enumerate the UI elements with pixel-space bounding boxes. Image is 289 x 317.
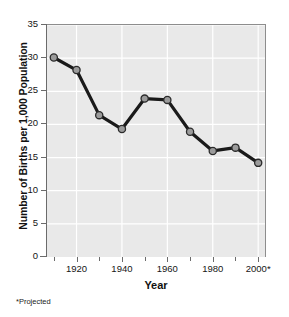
x-tick-mark [258, 257, 259, 262]
birth-rate-line-chart: Number of Births per 1,000 Population 05… [0, 0, 289, 317]
gridlines [47, 25, 265, 257]
x-tick-mark [167, 257, 168, 262]
y-tick-label: 15 [8, 152, 38, 162]
y-tick-label: 25 [8, 85, 38, 95]
data-point-marker [118, 125, 125, 132]
data-point-marker [186, 128, 193, 135]
y-tick-label: 0 [8, 251, 38, 261]
x-tick-label: 1980 [190, 264, 236, 274]
series-polyline [54, 57, 258, 162]
data-point-marker [73, 66, 80, 73]
x-tick-label: 1920 [54, 264, 100, 274]
x-tick-mark-minor [145, 257, 146, 261]
data-line [54, 57, 258, 162]
data-point-marker [164, 96, 171, 103]
x-tick-label: 1940 [99, 264, 145, 274]
y-tick-label: 5 [8, 218, 38, 228]
y-tick-label: 35 [8, 19, 38, 29]
y-tick-label: 10 [8, 185, 38, 195]
x-tick-mark-minor [54, 257, 55, 261]
data-point-marker [141, 95, 148, 102]
data-point-marker [209, 147, 216, 154]
chart-footnote: *Projected [16, 297, 51, 306]
y-tick-label: 30 [8, 52, 38, 62]
data-point-marker [96, 112, 103, 119]
x-axis-title: Year [47, 279, 265, 291]
data-point-marker [232, 144, 239, 151]
plot-area [47, 24, 266, 257]
x-tick-mark-minor [99, 257, 100, 261]
data-point-marker [255, 159, 262, 166]
plot-canvas [47, 25, 265, 257]
x-tick-mark [77, 257, 78, 262]
x-tick-mark [213, 257, 214, 262]
y-tick-label: 20 [8, 118, 38, 128]
x-tick-mark-minor [190, 257, 191, 261]
x-tick-label: 2000* [235, 264, 281, 274]
x-tick-mark-minor [235, 257, 236, 261]
x-tick-label: 1960 [144, 264, 190, 274]
x-tick-mark [122, 257, 123, 262]
data-point-marker [50, 54, 57, 61]
